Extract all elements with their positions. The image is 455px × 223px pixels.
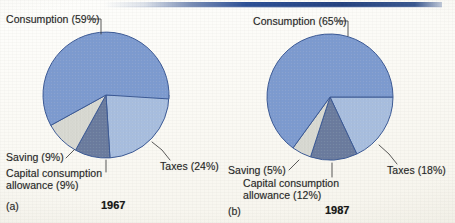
label-taxes-1967: Taxes (24%) <box>160 160 219 173</box>
label-consumption-1967: Consumption (59%) <box>6 13 100 26</box>
label-consumption-1987: Consumption (65%) <box>253 15 347 28</box>
panel-letter-a: (a) <box>6 200 19 212</box>
panel-letter-b: (b) <box>228 205 241 217</box>
leader-line-saving-1987 <box>289 160 299 170</box>
label-capital-consumption-allowance-1987-line1: Capital consumption <box>243 177 339 190</box>
leader-line-saving-1967 <box>66 150 74 158</box>
label-taxes-1987: Taxes (18%) <box>387 164 446 177</box>
figure-pie-charts-disposition-of-income: Consumption (59%) Taxes (24%) Saving (9%… <box>0 0 455 223</box>
label-capital-consumption-allowance-1967-line2: allowance (9%) <box>6 179 78 192</box>
leader-line-taxes-1967 <box>152 142 170 160</box>
label-capital-consumption-allowance-1987-line2: allowance (12%) <box>243 189 321 202</box>
label-saving-1987: Saving (5%) <box>228 164 286 177</box>
leader-line-taxes-1987 <box>379 145 397 164</box>
label-saving-1967: Saving (9%) <box>6 151 64 164</box>
panel-year-1967: 1967 <box>101 199 125 211</box>
label-capital-consumption-allowance-1967-line1: Capital consumption <box>6 167 102 180</box>
panel-year-1987: 1987 <box>325 204 349 216</box>
